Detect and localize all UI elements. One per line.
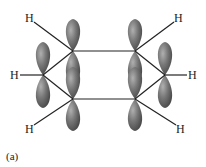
- benzene-diagram: H H H H H H (a): [0, 0, 206, 167]
- bonds: [20, 22, 187, 125]
- hydrogen-label-right: H: [188, 68, 197, 82]
- figure-caption: (a): [6, 150, 19, 163]
- hydrogen-label-top-right: H: [174, 11, 183, 25]
- p-orbitals: [36, 19, 172, 131]
- hydrogen-label-bottom-left: H: [25, 122, 34, 136]
- hydrogen-label-left: H: [10, 68, 19, 82]
- hydrogen-label-top-left: H: [25, 11, 34, 25]
- hydrogen-label-bottom-right: H: [176, 122, 185, 136]
